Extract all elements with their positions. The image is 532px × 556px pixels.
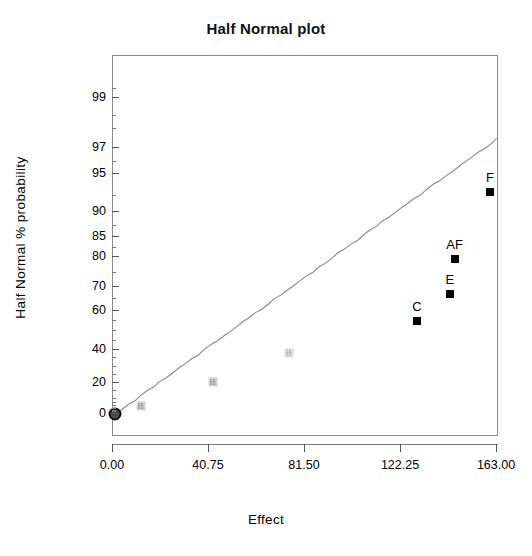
y-tick-mark: [112, 310, 119, 311]
y-tick-label: 70: [92, 280, 106, 292]
y-tick-minor: [112, 402, 116, 403]
y-tick-label: 85: [92, 230, 106, 242]
y-tick-minor: [112, 330, 116, 331]
y-tick-label: 20: [92, 376, 106, 388]
y-tick-label: 60: [92, 304, 106, 316]
y-tick-mark: [112, 286, 119, 287]
y-tick-minor: [112, 247, 116, 248]
y-tick-minor: [112, 320, 116, 321]
y-tick-minor: [112, 195, 116, 196]
y-tick-mark: [112, 349, 119, 350]
y-axis-label: Half Normal % probability: [13, 108, 28, 368]
y-tick-minor: [112, 405, 116, 406]
y-tick-mark: [112, 256, 119, 257]
y-tick-minor: [112, 398, 116, 399]
y-tick-minor: [112, 357, 116, 358]
y-tick-minor: [112, 374, 116, 375]
x-tick-label: 122.25: [381, 458, 419, 472]
y-tick-mark: [112, 382, 119, 383]
x-tick-label: 163.00: [477, 458, 515, 472]
y-tick-mark: [112, 97, 119, 98]
data-point-f[interactable]: [486, 188, 494, 196]
y-tick-minor: [112, 225, 116, 226]
y-tick-label: 0: [99, 407, 106, 419]
data-point-label-c: C: [412, 300, 421, 313]
y-tick-label: 40: [92, 343, 106, 355]
y-tick-mark: [112, 413, 119, 414]
page-title: Half Normal plot: [0, 20, 532, 37]
data-point-label-f: F: [486, 171, 494, 184]
x-axis-tick-labels: 0.0040.7581.50122.25163.00: [112, 458, 498, 478]
y-tick-label: 99: [92, 91, 106, 103]
y-axis-tick-labels: 020406070808590959799: [60, 55, 106, 436]
y-tick-label: 95: [92, 167, 106, 179]
plot-inner: CEAFF: [113, 56, 497, 435]
x-tick-label: 81.50: [288, 458, 319, 472]
y-tick-mark: [112, 173, 119, 174]
x-tick-mark: [208, 444, 209, 452]
data-point-c[interactable]: [413, 317, 421, 325]
x-tick-label: 40.75: [192, 458, 223, 472]
y-tick-minor: [112, 128, 116, 129]
x-axis-ticks: [112, 444, 498, 453]
x-tick-mark: [400, 444, 401, 452]
y-tick-minor: [112, 298, 116, 299]
x-tick-mark: [304, 444, 305, 452]
y-tick-minor: [112, 88, 116, 89]
y-tick-mark: [112, 211, 119, 212]
data-point[interactable]: [137, 401, 146, 410]
y-tick-mark: [112, 236, 119, 237]
x-axis-label: Effect: [0, 512, 532, 527]
data-point[interactable]: [284, 349, 293, 358]
y-tick-minor: [112, 272, 116, 273]
half-normal-plot-figure: Half Normal plot Half Normal % probabili…: [0, 0, 532, 556]
data-point[interactable]: [209, 378, 218, 387]
x-tick-mark: [112, 444, 113, 452]
y-tick-minor: [112, 340, 116, 341]
y-tick-minor: [112, 408, 116, 409]
y-tick-minor: [112, 390, 116, 391]
y-tick-minor: [112, 366, 116, 367]
reference-line: [113, 56, 497, 435]
x-tick-label: 0.00: [100, 458, 124, 472]
data-point-label-e: E: [446, 273, 455, 286]
plot-area: CEAFF: [112, 55, 498, 436]
y-tick-mark: [112, 147, 119, 148]
y-tick-label: 90: [92, 205, 106, 217]
y-tick-minor: [112, 161, 116, 162]
x-tick-mark: [496, 444, 497, 452]
data-point-e[interactable]: [446, 290, 454, 298]
data-point-label-af: AF: [446, 238, 463, 251]
y-tick-minor: [112, 410, 116, 411]
y-tick-label: 97: [92, 141, 106, 153]
y-axis-ticks: [112, 55, 120, 436]
y-tick-minor: [112, 115, 116, 116]
y-tick-minor: [112, 411, 116, 412]
data-point-af[interactable]: [451, 255, 459, 263]
y-tick-label: 80: [92, 250, 106, 262]
